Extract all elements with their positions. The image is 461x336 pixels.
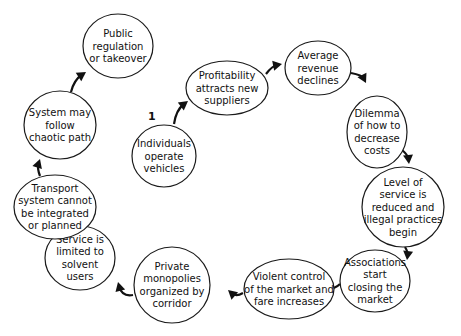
arrow-head-icon [403, 155, 413, 164]
arrow-profitability-to-average-revenue [266, 61, 282, 74]
node-label-line: organized by [140, 286, 205, 297]
arrow-average-revenue-to-dilemma [351, 73, 366, 83]
arrow-transport-system-to-system-chaotic [32, 159, 41, 176]
node-public-regulation: Publicregulationor takeover [83, 14, 153, 78]
node-label-line: service is [380, 189, 427, 200]
node-private-monopolies: Privatemonopoliesorganized bycorridor [134, 247, 210, 323]
node-label-line: regulation [93, 41, 144, 52]
node-label-line: revenue [298, 63, 339, 74]
node-label-line: solvent [62, 259, 99, 270]
node-label-line: monopolies [143, 273, 201, 284]
start-marker: 1 [148, 110, 156, 123]
node-label-line: of the market and [244, 284, 334, 295]
node-label-line: Dilemma [354, 108, 399, 119]
arrow-dilemma-to-level-of-service [402, 150, 413, 164]
node-label-line: Average [297, 50, 338, 61]
node-label-line: chaotic path [29, 132, 91, 143]
node-profitability: Profitabilityattracts newsuppliers [186, 61, 268, 115]
arrow-individuals-to-profitability [174, 101, 188, 124]
node-label-line: or planned [28, 220, 82, 231]
node-label-line: vehicles [144, 163, 185, 174]
node-label-line: fare increases [254, 296, 324, 307]
arrow-head-icon [272, 61, 282, 71]
node-label-line: Associations [344, 257, 406, 268]
node-label-line: declines [297, 75, 338, 86]
node-label-line: users [66, 271, 93, 282]
node-system-chaotic: System mayfollowchaotic path [24, 91, 96, 159]
node-label-line: System may [29, 107, 91, 118]
node-label-line: Private [155, 261, 190, 272]
node-label-line: Individuals [137, 138, 191, 149]
node-label-line: start [363, 269, 386, 280]
node-individuals: Individualsoperatevehicles [132, 125, 196, 187]
node-label-line: corridor [152, 298, 192, 309]
node-label-line: or takeover [89, 53, 147, 64]
node-label-line: closing the [348, 282, 403, 293]
node-label-line: Public [103, 28, 133, 39]
node-label-line: illegal practices [364, 214, 443, 225]
node-label-line: decrease [354, 133, 400, 144]
node-label-line: reduced and [372, 202, 435, 213]
node-violent-control: Violent controlof the market andfare inc… [244, 259, 334, 319]
node-label-line: suppliers [204, 95, 249, 106]
node-average-revenue: Averagerevenuedeclines [285, 41, 351, 95]
arrow-private-monopolies-to-service-limited [115, 282, 133, 295]
node-label-line: system cannot [18, 195, 92, 206]
node-label-line: Level of [383, 177, 423, 188]
node-label-line: begin [389, 227, 417, 238]
node-label-line: follow [45, 120, 75, 131]
node-transport-system: Transportsystem cannotbe integratedor pl… [14, 175, 96, 239]
node-label-line: Violent control [253, 271, 326, 282]
node-label-line: costs [364, 145, 390, 156]
nodes-layer: IndividualsoperatevehiclesProfitabilitya… [14, 14, 444, 323]
node-label-line: of how to [354, 120, 401, 131]
node-label-line: limited to [56, 246, 104, 257]
node-label-line: market [357, 294, 393, 305]
node-dilemma: Dilemmaof how todecreasecosts [347, 96, 407, 168]
cycle-diagram: IndividualsoperatevehiclesProfitabilitya… [0, 0, 461, 336]
node-label-line: Profitability [199, 70, 256, 81]
node-level-of-service: Level ofservice isreduced andillegal pra… [362, 167, 444, 247]
arrow-head-icon [115, 282, 125, 292]
node-label-line: Transport [31, 183, 79, 194]
node-associations: Associationsstartclosing themarket [340, 250, 410, 312]
node-label-line: attracts new [196, 83, 259, 94]
arrow-violent-control-to-private-monopolies [228, 290, 243, 300]
node-label-line: operate [145, 151, 184, 162]
arrow-system-chaotic-to-public-regulation [71, 72, 86, 92]
node-label-line: be integrated [21, 208, 89, 219]
